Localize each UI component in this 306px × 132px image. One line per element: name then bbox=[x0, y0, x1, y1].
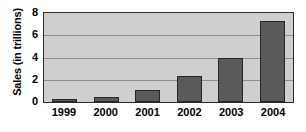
y-axis-tick-labels: 02468 bbox=[22, 12, 38, 101]
bar-slot bbox=[252, 13, 294, 102]
bar-slot bbox=[44, 13, 86, 102]
x-axis-tick-label: 1999 bbox=[43, 106, 85, 118]
y-axis-tick-label: 4 bbox=[22, 51, 38, 62]
x-axis-tick-labels: 199920002001200220032004 bbox=[43, 106, 294, 118]
x-axis-tick-label: 2002 bbox=[168, 106, 210, 118]
x-axis-tick-label: 2001 bbox=[127, 106, 169, 118]
bar-slot bbox=[86, 13, 128, 102]
bar-chart: Sales (in trillions) 02468 1999200020012… bbox=[0, 0, 306, 132]
plot-area bbox=[43, 12, 294, 103]
y-axis-tick-label: 0 bbox=[22, 96, 38, 107]
bars-group bbox=[44, 13, 293, 102]
y-axis-tick-label: 6 bbox=[22, 29, 38, 40]
x-axis-tick-label: 2004 bbox=[252, 106, 294, 118]
bar-slot bbox=[210, 13, 252, 102]
bar bbox=[94, 97, 119, 102]
bar bbox=[260, 21, 285, 102]
y-axis-tick-label: 8 bbox=[22, 7, 38, 18]
bar bbox=[218, 58, 243, 103]
bar-slot bbox=[169, 13, 211, 102]
bar-slot bbox=[127, 13, 169, 102]
x-axis-tick-label: 2003 bbox=[210, 106, 252, 118]
y-axis-tick-label: 2 bbox=[22, 73, 38, 84]
x-axis-tick-label: 2000 bbox=[85, 106, 127, 118]
bar bbox=[135, 90, 160, 102]
bar bbox=[52, 99, 77, 102]
bar bbox=[177, 76, 202, 102]
